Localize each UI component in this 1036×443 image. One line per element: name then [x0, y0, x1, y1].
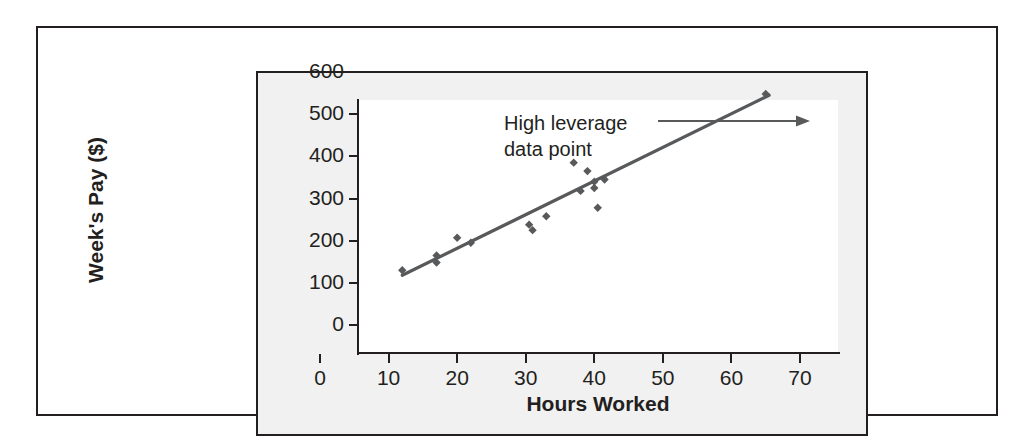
data-point	[594, 204, 602, 212]
regression-line	[402, 95, 769, 275]
data-point	[590, 184, 598, 192]
figure-frame: 0100200300400500600 010203040506070 Week…	[36, 26, 998, 416]
scatter-plot-graphics	[38, 28, 1036, 443]
data-points-group	[398, 90, 770, 275]
data-point	[542, 212, 550, 220]
data-point	[453, 234, 461, 242]
data-point	[570, 158, 578, 166]
data-point	[583, 167, 591, 175]
